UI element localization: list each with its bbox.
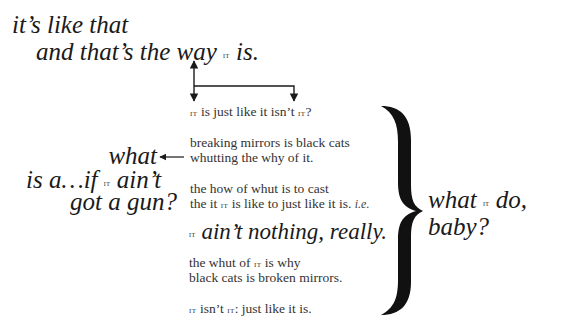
stanza-3-line-2: the it IT is like to just like it is. i.… <box>190 197 369 211</box>
right-curly-brace-icon <box>381 106 423 315</box>
question-mark: ? <box>305 104 311 119</box>
center-question: IT is just like it isn’t IT? <box>190 105 311 119</box>
it-word: IT <box>221 199 229 210</box>
left-what-text: what <box>108 142 157 169</box>
it-word: IT <box>227 304 235 315</box>
stanza-2-line-1: breaking mirrors is black cats <box>190 136 350 150</box>
left-what: what <box>108 143 157 168</box>
right-line-2-text: baby? <box>428 213 489 240</box>
bracket-arrow-icon <box>194 86 294 101</box>
closing-mid: isn’t <box>200 301 224 316</box>
stanza-5-line-1-post: is why <box>265 255 301 270</box>
right-line-1-post: do, <box>496 186 527 213</box>
right-line-1-pre: what <box>428 186 477 213</box>
left-line-3: got a gun? <box>70 189 177 214</box>
emphasis-text: ain’t nothing, really. <box>201 219 387 244</box>
stanza-5-line-1-pre: the whut of <box>189 255 251 270</box>
poem: it’s like that and that’s the way IT is.… <box>0 0 578 316</box>
stanza-5-line-2: black cats is broken mirrors. <box>189 271 342 285</box>
emphasis-line: IT ain’t nothing, really. <box>189 220 387 243</box>
it-word: IT <box>190 107 198 118</box>
it-word: IT <box>483 198 490 208</box>
it-word: IT <box>189 229 196 239</box>
stanza-2-line-1-text: breaking mirrors is black cats <box>190 135 350 150</box>
heading-line-2-pre: and that’s the way <box>36 38 217 65</box>
stanza-3-line-1-text: the how of whut is to cast <box>190 181 329 196</box>
closing-line: IT isn’t IT: just like it is. <box>189 302 312 316</box>
right-line-2: baby? <box>428 214 489 239</box>
heading-line-1: it’s like that <box>12 12 128 37</box>
heading-line-1-text: it’s like that <box>12 11 128 38</box>
stanza-2-line-2-text: whutting the why of it. <box>190 150 313 165</box>
heading-it: IT <box>223 50 230 60</box>
heading-line-2: and that’s the way IT is. <box>36 39 259 64</box>
stanza-2-line-2: whutting the why of it. <box>190 151 313 165</box>
question-text: is just like it isn’t <box>201 104 295 119</box>
it-word: IT <box>189 304 197 315</box>
it-word: IT <box>104 178 111 188</box>
stanza-3-line-2-post: is like to just like it is. <box>232 196 352 211</box>
stanza-3-line-2-pre: the it <box>190 196 217 211</box>
left-line-3-text: got a gun? <box>70 188 177 215</box>
it-word: IT <box>254 258 262 269</box>
closing-post: : just like it is. <box>235 301 312 316</box>
stanza-5-line-1: the whut of IT is why <box>189 256 301 270</box>
stanza-3-line-1: the how of whut is to cast <box>190 182 329 196</box>
stanza-5-line-2-text: black cats is broken mirrors. <box>189 270 342 285</box>
ie-abbrev: i.e. <box>355 197 370 211</box>
right-line-1: what IT do, <box>428 187 527 212</box>
heading-line-2-post: is. <box>236 38 259 65</box>
